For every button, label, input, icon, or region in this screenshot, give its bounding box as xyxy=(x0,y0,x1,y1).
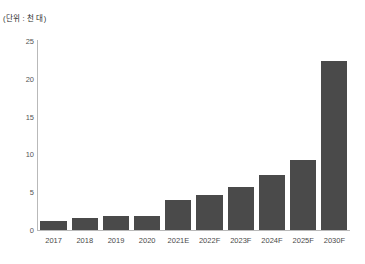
x-tick-label-2017: 2017 xyxy=(45,236,62,245)
x-tick-label-2022F: 2022F xyxy=(199,236,220,245)
x-tick-label-2019: 2019 xyxy=(108,236,125,245)
bar-column[interactable] xyxy=(290,41,316,230)
y-tick-label: 20 xyxy=(6,74,34,83)
y-tick-label: 25 xyxy=(6,37,34,46)
x-tick-label-2030F: 2030F xyxy=(324,236,345,245)
bar-column[interactable] xyxy=(321,41,347,230)
bar-column[interactable] xyxy=(165,41,191,230)
y-tick-label: 10 xyxy=(6,150,34,159)
bar-chart-figure: (단위 : 천 대) 0510152025 201720182019202020… xyxy=(0,0,365,264)
bar-column[interactable] xyxy=(259,41,285,230)
bar-column[interactable] xyxy=(228,41,254,230)
x-tick-label-2020: 2020 xyxy=(139,236,156,245)
bar-2022F[interactable] xyxy=(196,195,222,230)
bar-column[interactable] xyxy=(72,41,98,230)
bar-column[interactable] xyxy=(134,41,160,230)
bar-2018[interactable] xyxy=(72,218,98,230)
bar-2021E[interactable] xyxy=(165,200,191,230)
bar-column[interactable] xyxy=(40,41,66,230)
x-tick-label-2023F: 2023F xyxy=(230,236,251,245)
bar-2019[interactable] xyxy=(103,216,129,230)
y-tick-label: 5 xyxy=(6,188,34,197)
x-tick-label-2025F: 2025F xyxy=(293,236,314,245)
bar-column[interactable] xyxy=(103,41,129,230)
bar-2024F[interactable] xyxy=(259,175,285,230)
x-axis-line xyxy=(37,230,350,231)
bar-2017[interactable] xyxy=(40,221,66,230)
y-axis-tick-labels: 0510152025 xyxy=(0,0,34,264)
x-tick-label-2024F: 2024F xyxy=(261,236,282,245)
y-tick-label: 0 xyxy=(6,226,34,235)
x-tick-label-2021E: 2021E xyxy=(168,236,190,245)
y-tick-label: 15 xyxy=(6,112,34,121)
plot-area xyxy=(38,41,350,230)
bar-2020[interactable] xyxy=(134,216,160,230)
bar-column[interactable] xyxy=(196,41,222,230)
bar-2025F[interactable] xyxy=(290,160,316,230)
x-tick-label-2018: 2018 xyxy=(76,236,93,245)
bar-2023F[interactable] xyxy=(228,187,254,230)
bar-2030F[interactable] xyxy=(321,61,347,230)
